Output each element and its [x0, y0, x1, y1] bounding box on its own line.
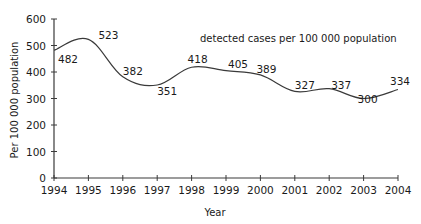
data-label: 334: [390, 75, 410, 87]
data-label: 337: [331, 79, 351, 91]
x-tick-label: 2003: [350, 184, 377, 196]
x-tick-label: 2001: [281, 184, 308, 196]
y-tick-label: 400: [26, 66, 46, 78]
x-tick-label: 2004: [385, 184, 412, 196]
x-tick-label: 1995: [75, 184, 102, 196]
y-tick-label: 200: [26, 119, 46, 131]
x-tick-label: 2002: [316, 184, 343, 196]
y-tick-label: 0: [39, 172, 46, 184]
data-label: 382: [123, 65, 143, 77]
data-label: 300: [358, 93, 378, 105]
data-label: 405: [228, 58, 248, 70]
y-tick-label: 100: [26, 146, 46, 158]
x-tick-label: 1999: [213, 184, 240, 196]
y-tick-label: 500: [26, 40, 46, 52]
x-axis-title: Year: [203, 207, 226, 218]
y-axis: 0100200300400500600: [26, 13, 57, 184]
x-tick-label: 1996: [109, 184, 136, 196]
x-axis: 1994199519961997199819992000200120022003…: [41, 175, 412, 196]
x-tick-label: 1994: [41, 184, 68, 196]
chart-title: detected cases per 100 000 population: [200, 33, 397, 44]
line-chart: 0100200300400500600 19941995199619971998…: [0, 0, 421, 224]
data-label: 523: [98, 29, 118, 41]
y-axis-title: Per 100 000 population: [9, 42, 20, 159]
y-tick-label: 300: [26, 93, 46, 105]
data-label: 418: [188, 53, 208, 65]
x-tick-label: 1997: [144, 184, 171, 196]
x-tick-label: 2000: [247, 184, 274, 196]
data-label: 327: [295, 79, 315, 91]
x-tick-label: 1998: [178, 184, 205, 196]
data-label: 482: [58, 53, 78, 65]
data-label: 389: [256, 63, 276, 75]
y-tick-label: 600: [26, 13, 46, 25]
data-label: 351: [157, 85, 177, 97]
